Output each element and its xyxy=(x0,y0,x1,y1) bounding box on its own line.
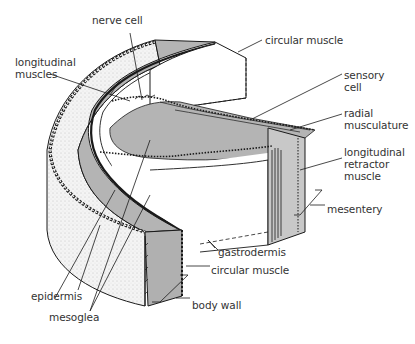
label-sensory-cell: sensory cell xyxy=(344,69,384,93)
label-epidermis: epidermis xyxy=(31,290,82,302)
label-body-wall: body wall xyxy=(192,299,241,311)
label-circular-muscle-top: circular muscle xyxy=(265,34,343,46)
right-slab xyxy=(268,128,305,245)
label-radial-musculature: radial musculature xyxy=(344,107,408,131)
label-mesentery: mesentery xyxy=(327,203,382,215)
label-circular-muscle-bottom: circular muscle xyxy=(211,264,289,276)
label-gastrodermis: gastrodermis xyxy=(218,246,286,258)
lower-block-cut-face xyxy=(145,230,182,306)
label-mesoglea: mesoglea xyxy=(49,311,99,323)
label-longitudinal-muscles: longitudinal muscles xyxy=(15,56,76,80)
body-wall-diagram: nerve cell circular muscle longitudinal … xyxy=(0,0,415,344)
label-longitudinal-retractor-muscle: longitudinal retractor muscle xyxy=(344,146,405,182)
label-nerve-cell: nerve cell xyxy=(92,14,143,26)
